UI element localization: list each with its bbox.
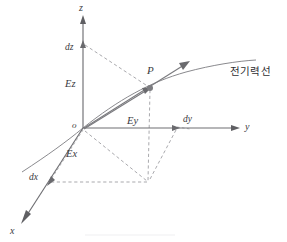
y-axis-arrowhead	[231, 125, 240, 131]
point-p-marker	[147, 85, 153, 91]
dashed-p-vertical-drop	[148, 90, 150, 181]
construction-dashed-lines	[49, 45, 190, 182]
ey-component-label: Ey	[127, 116, 138, 127]
ez-component-label: Ez	[65, 79, 76, 90]
dy-differential-label: dy	[183, 115, 192, 125]
y-axis-label: y	[245, 122, 249, 132]
electric-field-line-curve	[22, 60, 256, 172]
dz-tick-arrowhead	[80, 40, 86, 48]
electric-field-line-label: 전기력선	[230, 66, 271, 77]
z-axis-label: z	[79, 3, 83, 13]
dx-tick-arrowhead	[47, 176, 55, 186]
dashed-dy-to-base-corner	[149, 130, 176, 181]
origin-label: o	[72, 121, 77, 130]
dashed-origin-to-base-corner	[85, 131, 147, 181]
electric-field-line-figure: z y x o Ez Ey Ex dz dy dx P 전기력선	[0, 0, 287, 242]
resultant-field-vector-arrowhead	[179, 61, 190, 70]
dx-differential-label: dx	[29, 173, 38, 183]
ex-component-label: Ex	[66, 149, 77, 160]
dashed-dz-to-p	[85, 45, 149, 87]
dz-differential-label: dz	[65, 43, 73, 53]
point-p-label: P	[147, 65, 154, 76]
differential-tick-arrows	[47, 40, 180, 186]
diagram-canvas	[0, 0, 287, 242]
z-axis-arrowhead	[80, 15, 86, 24]
x-axis-label: x	[10, 226, 14, 236]
